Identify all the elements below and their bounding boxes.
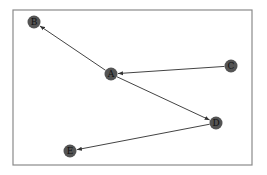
edge-c-to-a — [118, 66, 225, 73]
edge-a-to-b — [40, 26, 106, 70]
edges-group — [40, 26, 225, 150]
nodes-group: ABCDE — [28, 16, 238, 158]
node-label: E — [67, 146, 74, 156]
node-label: A — [107, 69, 115, 79]
node-label: D — [212, 118, 219, 128]
node-label: B — [31, 17, 38, 27]
edge-d-to-e — [77, 124, 210, 149]
edge-a-to-d — [117, 77, 210, 120]
graph-frame — [13, 10, 252, 165]
graph-canvas: ABCDE — [0, 0, 267, 175]
node-label: C — [228, 61, 235, 71]
node-e: E — [64, 145, 77, 158]
node-b: B — [28, 16, 41, 29]
node-d: D — [210, 117, 223, 130]
node-c: C — [225, 60, 238, 73]
node-a: A — [105, 68, 118, 81]
